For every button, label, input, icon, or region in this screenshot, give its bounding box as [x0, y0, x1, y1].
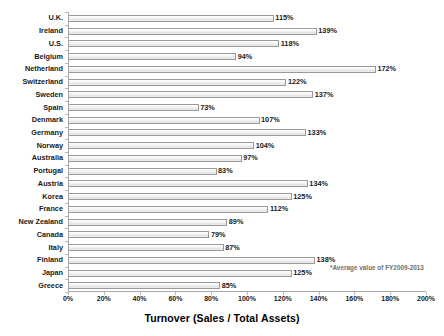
bar-value-label: 118% [281, 40, 299, 47]
bar-value-label: 125% [293, 193, 312, 200]
bar: 134% [68, 180, 308, 187]
bar: 133% [68, 129, 306, 136]
bar-row: Portugal83% [68, 165, 426, 178]
bar: 115% [68, 15, 274, 22]
category-label: Denmark [32, 117, 63, 124]
bar-row: Norway104% [68, 139, 426, 152]
x-axis-tick-label: 160% [345, 295, 363, 302]
bar: 83% [68, 168, 217, 175]
category-label: Belgium [34, 53, 63, 60]
x-axis-tick-label: 140% [310, 295, 328, 302]
bar: 104% [68, 142, 254, 149]
category-label: U.K. [48, 15, 63, 22]
bar-row: Ireland139% [68, 25, 426, 38]
plot-area: U.K.115%Ireland139%U.S.118%Belgium94%Net… [68, 12, 426, 292]
x-axis-tick-label: 100% [238, 295, 256, 302]
bar-value-label: 122% [288, 78, 307, 85]
x-axis-tick-label: 20% [97, 295, 111, 302]
category-label: Sweden [35, 91, 63, 98]
category-label: Netherland [25, 66, 63, 73]
turnover-bar-chart: U.K.115%Ireland139%U.S.118%Belgium94%Net… [0, 0, 444, 336]
category-label: U.S. [49, 40, 63, 47]
x-axis-title: Turnover (Sales / Total Assets) [0, 312, 444, 324]
bar: 73% [68, 104, 199, 111]
bar-row: Netherland172% [68, 63, 426, 76]
bar-value-label: 112% [270, 206, 288, 213]
bar-value-label: 139% [318, 27, 337, 34]
category-label: New Zealand [18, 218, 63, 225]
bar-value-label: 172% [377, 66, 396, 73]
bar-value-label: 89% [229, 218, 244, 225]
bar-row: Switzerland122% [68, 76, 426, 89]
bar-value-label: 104% [256, 142, 275, 149]
bar-value-label: 107% [261, 117, 280, 124]
category-label: Finland [37, 257, 63, 264]
x-axis-tick-label: 80% [204, 295, 218, 302]
bar: 94% [68, 53, 236, 60]
bar-value-label: 85% [222, 282, 237, 289]
category-label: Portugal [33, 168, 63, 175]
category-label: Ireland [39, 27, 63, 34]
bar-value-label: 134% [309, 180, 328, 187]
bar: 118% [68, 40, 279, 47]
bar-value-label: 125% [293, 269, 312, 276]
bar: 79% [68, 231, 209, 238]
bar-value-label: 87% [225, 244, 240, 251]
bar-row: New Zealand89% [68, 216, 426, 229]
bar-row: Canada79% [68, 228, 426, 241]
x-axis-tick-label: 0% [63, 295, 73, 302]
category-label: Spain [43, 104, 63, 111]
bar-value-label: 94% [238, 53, 253, 60]
category-label: Canada [37, 231, 63, 238]
bar-row: Korea125% [68, 190, 426, 203]
bar: 138% [68, 257, 315, 264]
x-axis-tick-label: 120% [274, 295, 292, 302]
x-axis-tick-label: 40% [133, 295, 147, 302]
bar-value-label: 133% [308, 129, 327, 136]
bar: 89% [68, 219, 227, 226]
bar: 97% [68, 155, 242, 162]
x-axis-tick-label: 200% [417, 295, 435, 302]
bar-value-label: 79% [211, 231, 226, 238]
bar-row: U.S.118% [68, 37, 426, 50]
category-label: Austria [38, 180, 63, 187]
bar: 172% [68, 66, 376, 73]
bar-value-label: 83% [218, 168, 233, 175]
bar-row: U.K.115% [68, 12, 426, 25]
bar-row: Denmark107% [68, 114, 426, 127]
category-label: Germany [31, 129, 63, 136]
category-label: Japan [42, 269, 63, 276]
bar-rows: U.K.115%Ireland139%U.S.118%Belgium94%Net… [68, 12, 426, 292]
x-axis-tick-label: 60% [168, 295, 182, 302]
x-axis-tick-labels: 0%20%40%60%80%100%120%140%160%180%200% [68, 295, 426, 307]
bar-value-label: 115% [275, 15, 293, 22]
bar: 125% [68, 193, 292, 200]
bar: 85% [68, 282, 220, 289]
bar-row: Australia97% [68, 152, 426, 165]
bar: 125% [68, 270, 292, 277]
category-label: Korea [42, 193, 63, 200]
y-axis-line [68, 12, 69, 292]
bar: 87% [68, 244, 224, 251]
bar-row: Belgium94% [68, 50, 426, 63]
x-axis-tick-label: 180% [381, 295, 399, 302]
bar-row: Austria134% [68, 178, 426, 191]
bar-value-label: 138% [317, 257, 336, 264]
bar-row: Italy87% [68, 241, 426, 254]
bar-row: Spain73% [68, 101, 426, 114]
bar-value-label: 97% [243, 155, 258, 162]
bar: 107% [68, 117, 260, 124]
category-label: Italy [48, 244, 63, 251]
bar-row: Sweden137% [68, 88, 426, 101]
footnote-annotation: *Average value of FY2009-2013 [330, 264, 424, 271]
bar: 137% [68, 91, 313, 98]
category-label: Switzerland [22, 78, 63, 85]
bar-value-label: 73% [200, 104, 215, 111]
category-label: Norway [37, 142, 63, 149]
bar-row: France112% [68, 203, 426, 216]
x-axis-line [68, 291, 426, 292]
bar: 112% [68, 206, 268, 213]
category-label: Greece [38, 282, 63, 289]
category-label: Australia [32, 155, 63, 162]
bar-row: Germany133% [68, 127, 426, 140]
